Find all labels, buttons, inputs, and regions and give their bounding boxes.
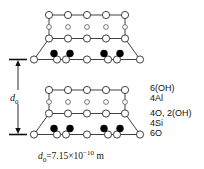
oxygen-hydroxyl-atom <box>121 110 128 117</box>
oxygen-hydroxyl-atom <box>45 35 52 42</box>
caption-base: 10 <box>74 151 84 161</box>
oxygen-hydroxyl-atom <box>102 35 109 42</box>
basal-oxygen-atom <box>136 56 143 63</box>
hydroxyl-atom <box>83 11 90 18</box>
layer-label-4si: 4Si <box>150 118 163 128</box>
layer-label-4al: 4Al <box>150 93 163 103</box>
upper-layer-unit <box>30 11 143 63</box>
silicon-atom <box>67 125 74 132</box>
basal-oxygen-atom <box>62 131 69 138</box>
oxygen-hydroxyl-atom <box>45 110 52 117</box>
hydroxyl-atom <box>64 86 71 93</box>
d0-arrowhead-down <box>15 128 20 134</box>
silicon-atom <box>117 50 124 57</box>
d0-subscript: 0 <box>15 98 19 106</box>
basal-oxygen-atom <box>104 56 111 63</box>
aluminium-atom <box>66 100 71 105</box>
silicon-atom <box>117 125 124 132</box>
oxygen-hydroxyl-atom <box>64 110 71 117</box>
basal-oxygen-atom <box>104 131 111 138</box>
hydroxyl-atom <box>83 86 90 93</box>
aluminium-atom <box>104 25 109 30</box>
aluminium-atom <box>123 100 128 105</box>
aluminium-atom <box>85 100 90 105</box>
caption-unit: m <box>96 151 103 161</box>
hydroxyl-atom <box>121 11 128 18</box>
aluminium-atom <box>123 25 128 30</box>
layer-label-6oh: 6(OH) <box>150 83 175 93</box>
aluminium-atom <box>47 25 52 30</box>
oxygen-hydroxyl-atom <box>102 110 109 117</box>
silicon-atom <box>101 125 108 132</box>
hydroxyl-atom <box>102 86 109 93</box>
oxygen-hydroxyl-atom <box>121 35 128 42</box>
silicon-atom <box>101 50 108 57</box>
hydroxyl-atom <box>64 11 71 18</box>
basal-oxygen-atom <box>136 131 143 138</box>
aluminium-atom <box>104 100 109 105</box>
d0-arrowhead-up <box>15 60 20 66</box>
basal-oxygen-atom <box>30 131 37 138</box>
caption-exponent: −10 <box>83 149 94 157</box>
aluminium-atom <box>66 25 71 30</box>
figure-caption: d0=7.15×10−10 m <box>38 149 104 164</box>
hydroxyl-atom <box>102 11 109 18</box>
layer-label-4o-2oh: 4O, 2(OH) <box>150 108 192 118</box>
hydroxyl-atom <box>45 11 52 18</box>
layer-label-6o: 6O <box>150 128 162 138</box>
oxygen-hydroxyl-atom <box>64 35 71 42</box>
aluminium-atom <box>47 100 52 105</box>
silicon-atom <box>51 50 58 57</box>
silicon-atom <box>51 125 58 132</box>
aluminium-atom <box>85 25 90 30</box>
hydroxyl-atom <box>45 86 52 93</box>
oxygen-hydroxyl-atom <box>83 35 90 42</box>
lower-layer-unit <box>30 86 143 138</box>
hydroxyl-atom <box>121 86 128 93</box>
oxygen-hydroxyl-atom <box>83 110 90 117</box>
basal-oxygen-atom <box>62 56 69 63</box>
basal-oxygen-atom <box>83 131 90 138</box>
silicon-atom <box>67 50 74 57</box>
caption-value: 7.15 <box>52 151 69 161</box>
basal-oxygen-atom <box>83 56 90 63</box>
d0-dimension-label: d0 <box>10 92 19 106</box>
basal-oxygen-atom <box>30 56 37 63</box>
